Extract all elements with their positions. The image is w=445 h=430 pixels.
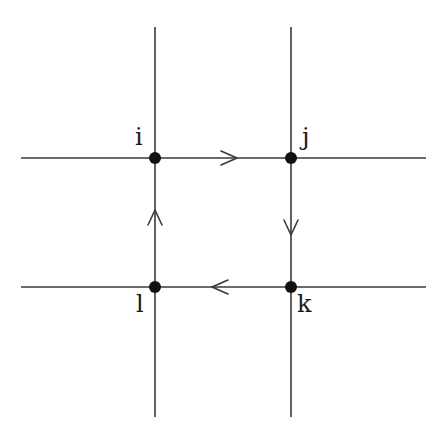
plaquette-diagram: i j k l: [0, 0, 445, 430]
node-label-j: j: [299, 123, 309, 151]
node-i: [149, 152, 161, 164]
node-label-l: l: [136, 290, 144, 318]
node-label-i: i: [135, 123, 143, 151]
node-k: [285, 281, 297, 293]
node-label-k: k: [297, 290, 312, 318]
node-l: [149, 281, 161, 293]
node-j: [285, 152, 297, 164]
